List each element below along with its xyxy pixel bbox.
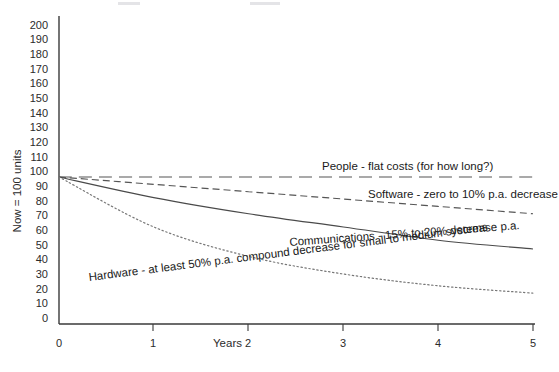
y-tick-label: 160: [14, 78, 48, 89]
series-label-software: Software - zero to 10% p.a. decrease: [368, 189, 558, 201]
series-label-people: People - flat costs (for how long?): [322, 161, 493, 173]
y-tick-label: 10: [14, 298, 48, 309]
x-tick-label: 4: [423, 338, 453, 349]
x-axis-title: Years: [213, 337, 242, 349]
y-axis-title: Now = 100 units: [11, 126, 23, 256]
x-tick-label: 5: [518, 338, 548, 349]
x-tick-label: 0: [44, 338, 74, 349]
x-tick-label: 1: [138, 338, 168, 349]
chart-container: 200 190 180 170 160 150 140 130 120 110 …: [0, 0, 559, 372]
y-tick-label: 140: [14, 108, 48, 119]
y-tick-label: 180: [14, 49, 48, 60]
y-tick-label: 30: [14, 269, 48, 280]
x-tick-label: 3: [328, 338, 358, 349]
y-tick-label: 20: [14, 284, 48, 295]
y-tick-label: 190: [14, 34, 48, 45]
y-tick-label: 150: [14, 93, 48, 104]
y-tick-label: 170: [14, 64, 48, 75]
plot-area: [0, 0, 559, 372]
y-tick-label: 0: [14, 313, 48, 324]
y-tick-label: 200: [14, 20, 48, 31]
